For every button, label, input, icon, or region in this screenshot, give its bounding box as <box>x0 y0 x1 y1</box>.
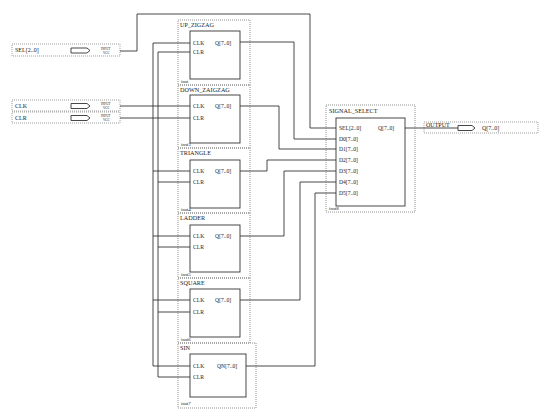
block-title: DOWN_ZAIGZAG <box>180 86 230 93</box>
pin-q: Q[7..0] <box>378 125 394 131</box>
input-pin-sel[interactable]: SEL[2..0] INPUT VCC <box>12 44 120 56</box>
pin-clk: CLK <box>193 363 204 369</box>
instance-label: inst8 <box>329 206 339 211</box>
pin-d2: D2[7..0] <box>339 157 358 163</box>
block-title: SQUARE <box>180 279 205 286</box>
pin-clr: CLR <box>193 179 204 185</box>
pin-d1: D1[7..0] <box>339 146 358 152</box>
pin-d4: D4[7..0] <box>339 179 358 185</box>
input-tag-vcc: VCC <box>103 118 110 122</box>
instance-label: inst <box>181 79 189 84</box>
instance-label: inst7 <box>181 401 191 406</box>
block-up-zigzag[interactable]: UP_ZIGZAG CLK CLR Q[7..0] inst <box>178 20 250 85</box>
input-arrow-icon <box>71 48 90 53</box>
input-pin-clk[interactable]: CLK INPUT VCC <box>12 100 120 111</box>
pin-d5: D5[7..0] <box>339 190 358 196</box>
block-title: SIN <box>180 344 191 351</box>
block-title: SIGNAL_SELECT <box>329 107 378 114</box>
pin-clr: CLR <box>193 309 204 315</box>
output-pin[interactable]: OUTPUT Q[7..0] <box>424 122 538 133</box>
input-arrow-icon <box>71 104 90 109</box>
input-pin-name: SEL[2..0] <box>15 47 39 54</box>
pin-q: Q[7..0] <box>215 233 231 239</box>
instance-label: inst3 <box>181 142 191 147</box>
block-down-zaigzag[interactable]: DOWN_ZAIGZAG CLK CLR Q[7..0] inst3 <box>178 85 250 148</box>
instance-label: inst4 <box>181 207 191 212</box>
pin-clk: CLK <box>193 103 204 109</box>
block-triangle[interactable]: TRIANGLE CLK CLR Q[7..0] inst4 <box>178 148 250 213</box>
block-square[interactable]: SQUARE CLK CLR Q[7..0] inst6 <box>178 278 250 343</box>
pin-clk: CLK <box>193 233 204 239</box>
pin-d3: D3[7..0] <box>339 168 358 174</box>
pin-q: Q[7..0] <box>215 168 231 174</box>
input-arrow-icon <box>71 116 90 121</box>
pin-q: Q[7..0] <box>215 297 231 303</box>
input-tag-vcc: VCC <box>103 106 110 110</box>
schematic-canvas: SEL[2..0] INPUT VCC CLK INPUT VCC CLR IN… <box>0 0 549 418</box>
pin-clr: CLR <box>193 49 204 55</box>
pin-clk: CLK <box>193 297 204 303</box>
input-pin-clr[interactable]: CLR INPUT VCC <box>12 112 120 123</box>
pin-qn: QN[7..0] <box>217 363 237 369</box>
pin-clk: CLK <box>193 168 204 174</box>
output-tag: OUTPUT <box>426 122 450 128</box>
pin-clr: CLR <box>193 115 204 121</box>
pin-q: Q[7..0] <box>215 40 231 46</box>
output-arrow-icon <box>458 126 475 131</box>
instance-label: inst5 <box>181 272 191 277</box>
input-tag: INPUT <box>101 102 110 106</box>
input-tag: INPUT <box>101 47 110 51</box>
pin-sel: SEL[2..0] <box>339 125 361 131</box>
pin-d0: D0[7..0] <box>339 136 358 142</box>
block-sin[interactable]: SIN CLK CLR QN[7..0] inst7 <box>178 343 256 408</box>
input-tag: INPUT <box>101 114 110 118</box>
wires <box>120 14 458 377</box>
instance-label: inst6 <box>181 337 191 342</box>
pin-clr: CLR <box>193 244 204 250</box>
block-signal-select[interactable]: SIGNAL_SELECT SEL[2..0] D0[7..0] D1[7..0… <box>326 105 415 212</box>
pin-clk: CLK <box>193 40 204 46</box>
pin-q: Q[7..0] <box>215 103 231 109</box>
block-ladder[interactable]: LADDER CLK CLR Q[7..0] inst5 <box>178 213 250 278</box>
pin-clr: CLR <box>193 374 204 380</box>
input-tag-vcc: VCC <box>103 51 110 55</box>
block-title: LADDER <box>180 214 206 221</box>
input-pin-name: CLR <box>15 115 27 121</box>
block-title: TRIANGLE <box>180 149 211 156</box>
output-pin-name: Q[7..0] <box>482 125 499 132</box>
block-title: UP_ZIGZAG <box>180 21 215 28</box>
input-pin-name: CLK <box>15 103 28 109</box>
